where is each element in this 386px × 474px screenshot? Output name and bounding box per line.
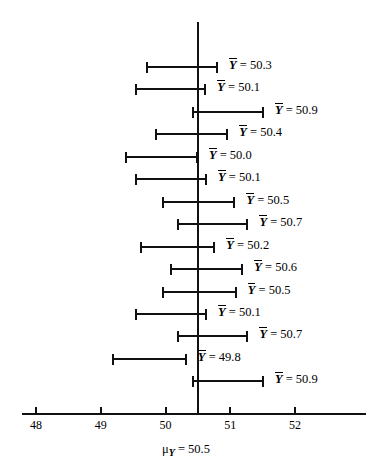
y-bar-symbol: Y [275, 372, 283, 386]
confidence-interval-chart: Y = 50.3Y = 50.1Y = 50.9Y = 50.4Y = 50.0… [0, 0, 386, 474]
interval-mean-label: Y = 50.1 [218, 170, 261, 184]
interval-upper-cap [262, 376, 264, 387]
interval-mean-value: = 50.9 [283, 103, 318, 117]
x-axis-tick-label: 52 [289, 419, 301, 431]
interval-mean-label: Y = 50.5 [248, 283, 291, 297]
x-axis-tick [229, 407, 231, 414]
interval-mean-value: = 50.5 [255, 283, 290, 297]
mu-axis-label: μY = 50.5 [162, 443, 210, 458]
y-bar-symbol: Y [239, 125, 247, 139]
interval-mean-label: Y = 49.8 [198, 350, 241, 364]
interval-mean-label: Y = 50.5 [246, 193, 289, 207]
confidence-interval-bar [177, 223, 248, 225]
interval-mean-label: Y = 50.9 [275, 103, 318, 117]
interval-lower-cap [146, 62, 148, 73]
interval-lower-cap [135, 174, 137, 185]
interval-mean-label: Y = 50.4 [239, 125, 282, 139]
interval-lower-cap [125, 152, 127, 163]
interval-upper-cap [205, 309, 207, 320]
confidence-interval-bar [135, 313, 207, 315]
interval-upper-cap [205, 174, 207, 185]
interval-mean-value: = 50.1 [225, 80, 260, 94]
y-bar-symbol: Y [218, 170, 226, 184]
interval-mean-value: = 50.6 [262, 260, 297, 274]
confidence-interval-bar [155, 133, 228, 135]
interval-lower-cap [135, 309, 137, 320]
mu-symbol: μ [162, 442, 169, 456]
y-bar-symbol: Y [259, 327, 267, 341]
interval-upper-cap [216, 62, 218, 73]
interval-lower-cap [192, 376, 194, 387]
interval-lower-cap [135, 84, 137, 95]
interval-lower-cap [177, 219, 179, 230]
x-axis-tick [294, 407, 296, 414]
y-bar-symbol: Y [217, 80, 225, 94]
interval-upper-cap [241, 264, 243, 275]
interval-lower-cap [140, 242, 142, 253]
interval-mean-value: = 50.7 [267, 215, 302, 229]
y-bar-symbol: Y [218, 305, 226, 319]
interval-lower-cap [162, 287, 164, 298]
mu-subscript: Y [169, 447, 175, 458]
interval-lower-cap [155, 129, 157, 140]
confidence-interval-bar [162, 291, 236, 293]
x-axis-tick-label: 50 [160, 419, 172, 431]
x-axis-tick [35, 407, 37, 414]
confidence-interval-bar [135, 178, 207, 180]
interval-upper-cap [262, 107, 264, 118]
interval-mean-label: Y = 50.0 [209, 148, 252, 162]
interval-mean-value: = 50.2 [234, 238, 269, 252]
interval-lower-cap [112, 354, 114, 365]
confidence-interval-bar [192, 111, 264, 113]
confidence-interval-bar [140, 246, 215, 248]
interval-mean-label: Y = 50.2 [226, 238, 269, 252]
x-axis-tick [100, 407, 102, 414]
confidence-interval-bar [146, 66, 218, 68]
interval-mean-value: = 50.7 [267, 327, 302, 341]
x-axis-line [22, 413, 366, 415]
interval-upper-cap [226, 129, 228, 140]
interval-mean-value: = 49.8 [206, 350, 241, 364]
interval-upper-cap [185, 354, 187, 365]
interval-mean-value: = 50.3 [237, 58, 272, 72]
x-axis-tick [165, 407, 167, 414]
interval-upper-cap [235, 287, 237, 298]
y-bar-symbol: Y [229, 58, 237, 72]
x-axis-tick-label: 51 [224, 419, 236, 431]
interval-upper-cap [196, 152, 198, 163]
y-bar-symbol: Y [209, 148, 217, 162]
interval-mean-value: = 50.4 [247, 125, 282, 139]
confidence-interval-bar [177, 335, 248, 337]
interval-mean-value: = 50.9 [283, 372, 318, 386]
interval-lower-cap [192, 107, 194, 118]
interval-upper-cap [204, 84, 206, 95]
interval-mean-value: = 50.5 [254, 193, 289, 207]
interval-upper-cap [246, 219, 248, 230]
mu-value: = 50.5 [178, 442, 210, 456]
interval-mean-label: Y = 50.1 [218, 305, 261, 319]
interval-upper-cap [233, 197, 235, 208]
interval-mean-value: = 50.1 [226, 170, 261, 184]
y-bar-symbol: Y [226, 238, 234, 252]
confidence-interval-bar [192, 380, 264, 382]
interval-mean-label: Y = 50.1 [217, 80, 260, 94]
interval-mean-label: Y = 50.7 [259, 327, 302, 341]
confidence-interval-bar [135, 88, 206, 90]
confidence-interval-bar [162, 201, 235, 203]
y-bar-symbol: Y [198, 350, 206, 364]
y-bar-symbol: Y [259, 215, 267, 229]
interval-mean-label: Y = 50.3 [229, 58, 272, 72]
interval-mean-label: Y = 50.9 [275, 372, 318, 386]
x-axis-tick-label: 48 [30, 419, 42, 431]
y-bar-symbol: Y [246, 193, 254, 207]
interval-lower-cap [162, 197, 164, 208]
x-axis-tick-label: 49 [95, 419, 107, 431]
confidence-interval-bar [112, 358, 187, 360]
interval-mean-label: Y = 50.6 [254, 260, 297, 274]
interval-mean-value: = 50.0 [217, 148, 252, 162]
interval-lower-cap [177, 331, 179, 342]
interval-mean-value: = 50.1 [226, 305, 261, 319]
y-bar-symbol: Y [254, 260, 262, 274]
interval-lower-cap [170, 264, 172, 275]
confidence-interval-bar [125, 156, 198, 158]
